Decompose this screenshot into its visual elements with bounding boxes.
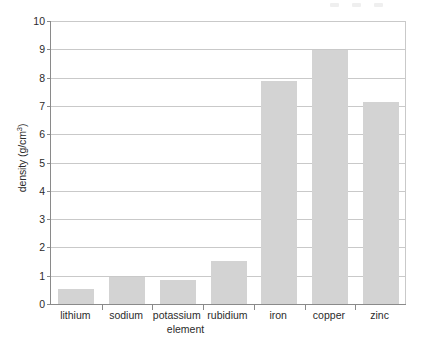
x-axis-tick-label-rubidium: rubidium [202, 309, 253, 321]
y-axis-tick-label: 8 [23, 73, 45, 83]
y-axis-tick-mark [47, 106, 51, 107]
bar-potassium [160, 280, 196, 304]
y-axis-tick-label: 10 [23, 16, 45, 26]
bar-copper [312, 50, 348, 304]
x-axis-tick-label-zinc: zinc [354, 309, 405, 321]
gridline [51, 219, 406, 220]
y-axis-tick-mark [47, 49, 51, 50]
y-axis-tick-mark [47, 21, 51, 22]
gridline [51, 49, 406, 50]
y-axis-tick-mark [47, 304, 51, 305]
gridline [51, 106, 406, 107]
y-axis-tick-label: 1 [23, 271, 45, 281]
bar-chart: density (g/cm3) 012345678910 lithiumsodi… [0, 0, 421, 349]
x-axis-title-label: element [167, 323, 204, 335]
y-axis-tick-mark [47, 78, 51, 79]
bar-rubidium [211, 261, 247, 304]
bar-zinc [363, 102, 399, 304]
x-axis-tick-label-sodium: sodium [101, 309, 152, 321]
y-axis-tick-label: 2 [23, 242, 45, 252]
y-axis-tick-label: 0 [23, 299, 45, 309]
gridline [51, 134, 406, 135]
gridline [51, 78, 406, 79]
x-axis-tick-label-lithium: lithium [50, 309, 101, 321]
y-axis-tick-mark [47, 219, 51, 220]
gridline [51, 163, 406, 164]
scan-artifact [330, 1, 390, 8]
y-axis-tick-mark [47, 134, 51, 135]
plot-area [50, 21, 406, 305]
y-axis-tick-label: 3 [23, 214, 45, 224]
y-axis-tick-labels: 012345678910 [22, 0, 45, 349]
x-axis-tick-label-potassium: potassium [151, 309, 202, 321]
y-axis-tick-mark [47, 247, 51, 248]
gridline [51, 247, 406, 248]
x-axis-title: element [50, 323, 405, 335]
y-axis-tick-mark [47, 191, 51, 192]
bar-lithium [58, 289, 94, 304]
gridline [51, 191, 406, 192]
gridline [51, 21, 406, 22]
y-axis-tick-label: 5 [23, 158, 45, 168]
x-axis-tick-label-copper: copper [304, 309, 355, 321]
y-axis-tick-mark [47, 276, 51, 277]
bar-iron [261, 81, 297, 304]
y-axis-tick-label: 4 [23, 186, 45, 196]
y-axis-tick-label: 9 [23, 44, 45, 54]
y-axis-tick-mark [47, 163, 51, 164]
y-axis-tick-label: 7 [23, 101, 45, 111]
x-axis-tick-label-iron: iron [253, 309, 304, 321]
y-axis-tick-label: 6 [23, 129, 45, 139]
bar-sodium [109, 277, 145, 304]
